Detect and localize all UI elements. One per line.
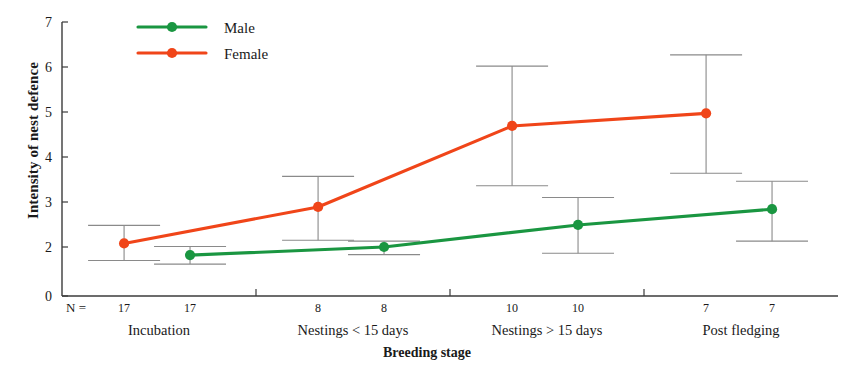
category-labels: IncubationNestings < 15 daysNestings > 1… bbox=[128, 322, 779, 338]
legend-marker-male bbox=[167, 22, 177, 32]
y-tick-group: 0234567 bbox=[45, 15, 68, 304]
sample-size-value: 10 bbox=[506, 301, 518, 315]
plot-area: 0234567 N =178107178107 IncubationNestin… bbox=[0, 0, 854, 385]
nest-defence-chart: Intensity of nest defence Breeding stage… bbox=[0, 0, 854, 385]
sample-size-value: 7 bbox=[769, 301, 775, 315]
data-point-male bbox=[185, 250, 195, 260]
legend: MaleFemale bbox=[138, 20, 268, 62]
data-series-group bbox=[119, 108, 777, 260]
y-tick-label: 6 bbox=[45, 60, 52, 75]
data-point-male bbox=[379, 242, 389, 252]
legend-label-male: Male bbox=[224, 20, 255, 36]
y-tick-label: 4 bbox=[45, 150, 52, 165]
data-point-female bbox=[119, 238, 129, 248]
category-label: Nestings > 15 days bbox=[492, 322, 603, 338]
n-equals-label: N = bbox=[66, 300, 86, 315]
category-label: Nestings < 15 days bbox=[298, 322, 409, 338]
sample-size-labels: N =178107178107 bbox=[66, 300, 775, 315]
y-tick-label: 5 bbox=[45, 105, 52, 120]
sample-size-value: 7 bbox=[703, 301, 709, 315]
sample-size-value: 10 bbox=[572, 301, 584, 315]
data-point-male bbox=[573, 220, 583, 230]
category-label: Post fledging bbox=[703, 322, 780, 338]
sample-size-value: 17 bbox=[184, 301, 196, 315]
sample-size-value: 8 bbox=[315, 301, 321, 315]
y-tick-label: 7 bbox=[45, 15, 52, 30]
legend-label-female: Female bbox=[224, 46, 268, 62]
legend-marker-female bbox=[167, 48, 177, 58]
error-bars-group bbox=[88, 55, 808, 264]
data-point-female bbox=[507, 121, 517, 131]
y-tick-label: 2 bbox=[45, 240, 52, 255]
category-label: Incubation bbox=[128, 322, 191, 338]
sample-size-value: 17 bbox=[118, 301, 130, 315]
sample-size-value: 8 bbox=[381, 301, 387, 315]
y-tick-label: 0 bbox=[45, 289, 52, 304]
series-line-female bbox=[124, 113, 706, 243]
data-point-female bbox=[313, 202, 323, 212]
axis-group bbox=[62, 22, 838, 296]
y-tick-label: 3 bbox=[45, 195, 52, 210]
x-tick-group bbox=[256, 289, 644, 296]
data-point-female bbox=[701, 108, 711, 118]
data-point-male bbox=[767, 204, 777, 214]
